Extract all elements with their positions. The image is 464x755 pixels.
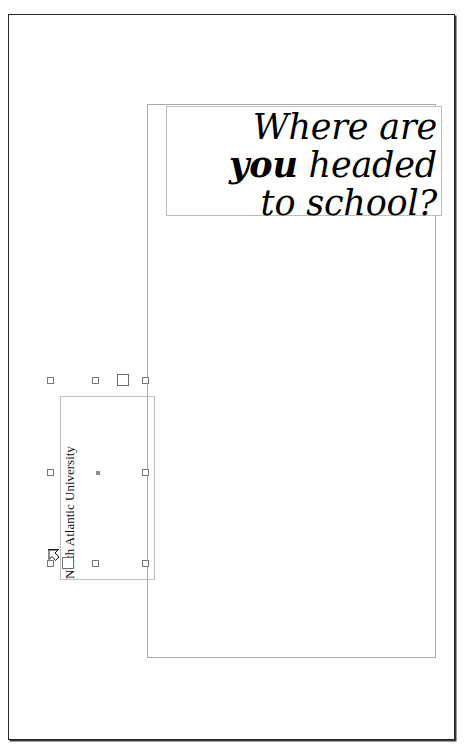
handle-bottom-center[interactable] [92,560,99,567]
document-workspace[interactable]: Where areyou headedto school? North Atla… [0,0,464,755]
vertical-text-box[interactable]: North Atlantic University [60,396,155,580]
headline-text: Where areyou headedto school? [169,109,437,222]
headline-line-3: to school? [261,183,437,223]
headline-emphasis: you [229,144,298,185]
handle-top-left[interactable] [47,377,54,384]
handle-top-center[interactable] [92,377,99,384]
vertical-text-rotation-wrapper: North Atlantic University [61,397,156,581]
textbox-center-marker [96,471,100,475]
handle-middle-left[interactable] [47,469,54,476]
handle-bottom-grip[interactable] [62,557,74,569]
headline-line-1: Where are [253,107,437,147]
handle-top-rotate[interactable] [117,374,129,386]
handle-middle-right[interactable] [142,469,149,476]
headline-line-2-rest: headed [298,145,437,185]
handle-bottom-left[interactable] [47,560,54,567]
headline-text-box[interactable]: Where areyou headedto school? [166,106,442,216]
handle-bottom-right[interactable] [142,560,149,567]
handle-top-right[interactable] [142,377,149,384]
page-sheet[interactable]: Where areyou headedto school? North Atla… [8,14,455,740]
